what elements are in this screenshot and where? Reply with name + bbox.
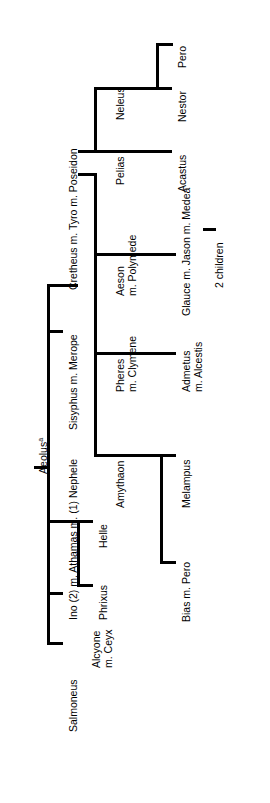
- connector-amythaon-to-children: [110, 454, 176, 457]
- connector-tick-pelias: [94, 150, 110, 153]
- connector-pelias-to-acastus: [110, 150, 172, 153]
- node-aeolus: Aeolusa: [26, 438, 61, 485]
- connector-tick-amythaon: [94, 454, 110, 457]
- node-sisyphus-merope: Sisyphus m. Merope: [68, 334, 80, 430]
- node-alcyone-spouse: m. Ceyx: [80, 629, 138, 668]
- node-salmoneus: Salmoneus: [68, 679, 80, 732]
- node-aeolus-footnote: a: [36, 438, 43, 442]
- node-phrixus: Phrixus: [98, 585, 110, 620]
- connector-aeson-to-jason: [110, 253, 176, 256]
- connector-jason-to-children: [203, 228, 216, 231]
- node-aeolus-label: Aeolus: [37, 442, 49, 474]
- node-admetus-spouse: m. Alcestis: [193, 342, 205, 392]
- node-aeson: Aeson: [115, 266, 127, 296]
- node-two-children: 2 children: [214, 242, 226, 288]
- node-admetus: Admetus: [181, 351, 193, 392]
- node-aeson-spouse: m. Polymede: [127, 235, 139, 296]
- node-bias-pero: Bias m. Pero: [181, 562, 193, 622]
- connector-tick-cretheus: [47, 284, 63, 287]
- node-nestor: Nestor: [177, 91, 189, 122]
- node-amythaon: Amythaon: [115, 461, 127, 508]
- connector-neleus-spine: [156, 43, 159, 90]
- connector-cretheus-spine-top: [78, 173, 97, 176]
- connector-tyro-poseidon-stem: [78, 150, 95, 153]
- connector-poseidon-spine: [94, 87, 97, 153]
- connector-tick-salmoneus: [47, 642, 63, 645]
- connector-cretheus-spine: [94, 173, 97, 457]
- node-acastus: Acastus: [177, 155, 189, 192]
- connector-tick-pero: [156, 43, 173, 46]
- node-helle: Helle: [98, 524, 110, 548]
- connector-amythaon-spine: [160, 454, 163, 564]
- node-alcyone-line2: m. Ceyx: [103, 629, 115, 668]
- connector-tick-alcyone: [47, 592, 63, 595]
- node-glauce-jason-medea: Glauce m. Jason m. Medea: [181, 188, 193, 316]
- node-pheres-spouse: m. Clymene: [127, 336, 139, 392]
- node-pelias: Pelias: [115, 156, 127, 185]
- node-pero: Pero: [177, 46, 189, 68]
- connector-tick-athamas: [47, 520, 63, 523]
- node-neleus: Neleus: [115, 87, 127, 120]
- connector-tick-aeson: [94, 253, 110, 256]
- connector-tick-bias: [160, 561, 176, 564]
- node-melampus: Melampus: [181, 460, 193, 508]
- connector-tick-neleus: [94, 87, 110, 90]
- connector-tick-sisyphus: [47, 330, 63, 333]
- node-ino-athamas-nephele: Ino (2) m. Athamas m. (1) Nephele: [68, 459, 80, 620]
- connector-pheres-to-admetus: [110, 352, 176, 355]
- connector-tick-pheres: [94, 352, 110, 355]
- node-pheres: Pheres: [115, 359, 127, 392]
- family-tree-diagram: Aeolusa Salmoneus Alcyone m. Ceyx Ino (2…: [0, 0, 270, 803]
- node-cretheus-tyro-poseidon: Cretheus m. Tyro m. Poseidon: [68, 148, 80, 290]
